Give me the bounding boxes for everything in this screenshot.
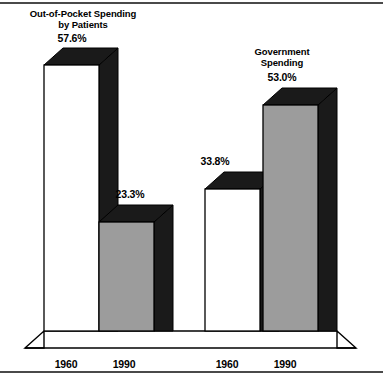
x-axis-label-gov-1960: 1960 [205,358,249,370]
bar-value-label-gov-1990: 53.0% [252,71,312,83]
group-title-government: Government Spending [222,46,342,68]
group-title-out-of-pocket: Out-of-Pocket Spending by Patients [18,8,148,30]
x-axis-label-oop-1990: 1990 [102,358,146,370]
bar-value-label-oop-1990: 23.3% [100,188,160,200]
chart-floor [25,331,356,348]
bar-value-label-gov-1960: 33.8% [185,155,245,167]
bar-value-label-oop-1960: 57.6% [42,32,102,44]
bar-gov-1990 [263,88,337,331]
x-axis-label-gov-1990: 1990 [263,358,307,370]
x-axis-label-oop-1960: 1960 [44,358,88,370]
bar-oop-1990 [99,205,173,331]
chart-container: Out-of-Pocket Spending by Patients Gover… [0,0,383,387]
